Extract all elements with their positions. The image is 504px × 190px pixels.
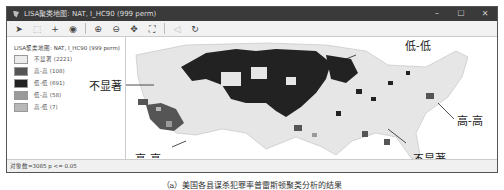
layers-icon[interactable]: ◉ xyxy=(67,23,79,35)
minimize-button[interactable]: – xyxy=(425,7,449,21)
annotation-not-significant-left: 不显著 xyxy=(89,77,122,93)
map-toolbar: ➤ ⬚ + ◉ ⊕ ⊖ ✥ ⛶ ◁ ↻ xyxy=(7,21,497,37)
figure-caption: （a）美国各县谋杀犯罪率普雷斯顿聚类分析的结果 xyxy=(0,179,504,190)
fit-extent-icon[interactable]: ⛶ xyxy=(146,23,158,35)
legend-swatch xyxy=(14,91,28,100)
legend-swatch xyxy=(14,79,28,88)
pan-icon[interactable]: ✥ xyxy=(128,23,140,35)
legend-swatch xyxy=(14,103,28,112)
annotation-low-low: 低-低 xyxy=(405,37,431,53)
annotation-high-high-right: 高-高 xyxy=(457,112,483,128)
zoom-in-icon[interactable]: ⊕ xyxy=(92,23,104,35)
legend-swatch xyxy=(14,55,28,64)
zoom-out-icon[interactable]: ⊖ xyxy=(110,23,122,35)
us-county-cluster-map[interactable] xyxy=(126,37,497,160)
maximize-button[interactable]: ☐ xyxy=(449,7,473,21)
toolbar-divider xyxy=(164,23,165,34)
map-legend: LISA聚类地图: NAT, I_HC90 (999 perm) 不显著 (22… xyxy=(7,37,126,160)
select-arrow-icon[interactable]: ➤ xyxy=(13,23,25,35)
title-bar[interactable]: LISA聚类地图: NAT, I_HC90 (999 perm) – ☐ ✕ xyxy=(7,7,497,21)
legend-item-high-low[interactable]: 高-低 (7) xyxy=(14,102,125,112)
window-title: LISA聚类地图: NAT, I_HC90 (999 perm) xyxy=(24,7,425,21)
app-icon xyxy=(13,11,19,18)
refresh-icon[interactable]: ↻ xyxy=(189,23,201,35)
legend-swatch xyxy=(14,67,28,76)
lisa-map-window: LISA聚类地图: NAT, I_HC90 (999 perm) – ☐ ✕ ➤… xyxy=(6,6,498,173)
legend-item-high-high[interactable]: 高-高 (108) xyxy=(14,66,125,76)
close-button[interactable]: ✕ xyxy=(473,7,497,21)
back-icon[interactable]: ◁ xyxy=(171,23,183,35)
crosshair-icon[interactable]: + xyxy=(49,23,61,35)
legend-title: LISA聚类地图: NAT, I_HC90 (999 perm) xyxy=(14,44,125,52)
legend-item-not-significant[interactable]: 不显著 (2221) xyxy=(14,54,125,64)
toolbar-divider xyxy=(85,23,86,34)
status-bar: 对象数=3085 p <= 0.05 xyxy=(7,159,497,172)
select-region-icon[interactable]: ⬚ xyxy=(31,23,43,35)
map-canvas xyxy=(126,37,499,162)
